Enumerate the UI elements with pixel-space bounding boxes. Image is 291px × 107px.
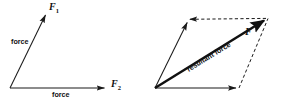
force-diagram-figure: F1 F2 force force resultant force F [0, 0, 291, 107]
label-f2: F2 [111, 79, 121, 92]
label-force-left: force [11, 38, 29, 45]
construction-line-top [190, 18, 267, 19]
left-panel-group [10, 15, 105, 88]
vector-diagram-svg [0, 0, 291, 107]
label-force-bottom: force [52, 91, 70, 98]
vector-f1-line [10, 15, 46, 88]
construction-line-right [239, 19, 268, 89]
label-f1: F1 [49, 2, 59, 15]
label-resultant-symbol: F [245, 27, 252, 37]
